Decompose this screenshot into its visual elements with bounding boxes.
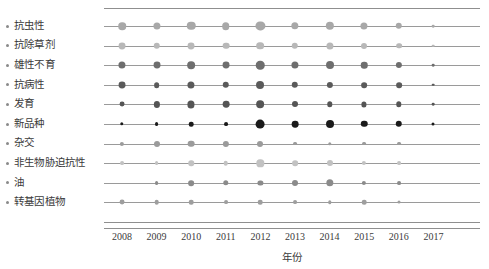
bubble-point[interactable] [155,161,159,165]
bubble-point[interactable] [153,42,159,48]
bubble-point[interactable] [396,102,401,107]
bubble-point[interactable] [256,81,264,89]
bubble-point[interactable] [120,161,124,165]
bubble-point[interactable] [222,62,229,69]
bubble-point[interactable] [223,82,229,88]
bubble-point[interactable] [292,42,298,48]
bubble-point[interactable] [292,121,299,128]
bubble-point[interactable] [119,42,126,49]
bubble-point[interactable] [326,61,334,69]
category-label-row[interactable]: 抗病性 [0,78,104,92]
bubble-point[interactable] [258,200,263,205]
bubble-point[interactable] [432,123,435,126]
bubble-point[interactable] [362,142,366,146]
bubble-point[interactable] [224,161,229,166]
bubble-point[interactable] [293,200,297,204]
bubble-point[interactable] [291,62,298,69]
bubble-point[interactable] [153,101,159,107]
bubble-point[interactable] [188,81,195,88]
bubble-point[interactable] [396,43,402,49]
bubble-point[interactable] [327,160,333,166]
bubble-point[interactable] [187,22,195,30]
bubble-point[interactable] [257,42,265,50]
bubble-point[interactable] [187,61,195,69]
bubble-point[interactable] [155,122,159,126]
bubble-point[interactable] [326,82,332,88]
bubble-point[interactable] [223,140,229,146]
bubble-point[interactable] [326,179,333,186]
bubble-point[interactable] [154,82,160,88]
bubble-point[interactable] [188,140,195,147]
bubble-point[interactable] [361,62,367,68]
category-label-row[interactable]: 新品种 [0,117,104,131]
category-label-row[interactable]: 抗除草剂 [0,39,104,53]
bubble-point[interactable] [153,62,160,69]
category-label-row[interactable]: 抗虫性 [0,19,104,33]
bubble-point[interactable] [396,62,402,68]
bubble-point[interactable] [361,22,368,29]
bubble-point[interactable] [432,44,435,47]
bubble-point[interactable] [432,25,435,28]
bubble-point[interactable] [362,181,366,185]
bubble-point[interactable] [120,122,123,125]
bubble-point[interactable] [327,102,332,107]
bubble-point[interactable] [188,42,195,49]
category-label-row[interactable]: 雄性不育 [0,58,104,72]
bubble-point[interactable] [188,101,195,108]
bubble-point[interactable] [189,200,194,205]
bubble-point[interactable] [396,23,402,29]
bubble-point[interactable] [120,141,124,145]
bubble-point[interactable] [118,62,125,69]
bubble-point[interactable] [257,141,263,147]
bubble-point[interactable] [256,61,264,69]
category-label-row[interactable]: 转基因植物 [0,195,104,209]
bubble-point[interactable] [188,180,194,186]
bubble-point[interactable] [397,201,400,204]
bubble-point[interactable] [222,22,230,30]
bubble-point[interactable] [361,121,367,127]
bubble-point[interactable] [326,42,333,49]
bubble-point[interactable] [120,102,125,107]
bubble-point[interactable] [256,120,265,129]
bubble-point[interactable] [119,81,126,88]
bubble-point[interactable] [361,43,367,49]
bubble-point[interactable] [257,160,264,167]
bubble-point[interactable] [397,161,401,165]
bubble-point[interactable] [293,142,297,146]
bubble-point[interactable] [432,83,435,86]
bubble-point[interactable] [396,121,402,127]
bubble-point[interactable] [361,82,367,88]
bubble-point[interactable] [120,200,125,205]
bubble-point[interactable] [292,82,298,88]
bubble-point[interactable] [258,180,263,185]
bubble-point[interactable] [222,101,229,108]
bubble-point[interactable] [223,180,228,185]
bubble-point[interactable] [292,101,298,107]
bubble-point[interactable] [432,103,435,106]
bubble-point[interactable] [432,64,435,67]
category-label-row[interactable]: 杂交 [0,137,104,151]
bubble-point[interactable] [256,21,265,30]
bubble-point[interactable] [257,101,265,109]
bubble-point[interactable] [362,102,367,107]
bubble-point[interactable] [362,200,367,205]
bubble-point[interactable] [397,181,401,185]
bubble-point[interactable] [291,22,298,29]
bubble-point[interactable] [224,200,228,204]
category-label-row[interactable]: 发育 [0,97,104,111]
bubble-point[interactable] [397,142,401,146]
category-label-row[interactable]: 油 [0,176,104,190]
bubble-point[interactable] [292,180,298,186]
bubble-point[interactable] [292,160,298,166]
bubble-point[interactable] [362,161,366,165]
bubble-point[interactable] [154,200,159,205]
bubble-point[interactable] [188,160,193,165]
bubble-point[interactable] [153,22,160,29]
bubble-point[interactable] [328,201,331,204]
bubble-point[interactable] [189,122,194,127]
bubble-point[interactable] [154,141,160,147]
bubble-point[interactable] [222,42,229,49]
bubble-point[interactable] [118,22,126,30]
bubble-point[interactable] [396,82,402,88]
bubble-point[interactable] [328,142,331,145]
